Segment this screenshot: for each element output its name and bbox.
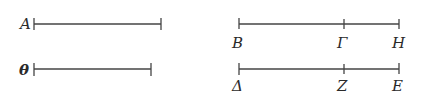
label-h: H <box>391 34 406 52</box>
segment-theta <box>34 63 151 76</box>
label-theta: θ <box>19 61 29 79</box>
label-delta: Δ <box>231 77 243 95</box>
segment-a <box>34 18 161 30</box>
label-a: A <box>18 15 31 33</box>
label-b: B <box>231 34 243 52</box>
label-e: E <box>391 77 403 95</box>
label-z: Z <box>336 77 348 95</box>
label-gamma: Γ <box>336 34 348 52</box>
segment-delta-z-e <box>239 63 399 75</box>
segment-b-gamma-h <box>239 18 399 29</box>
geometry-diagram: A θ B Γ H Δ Z E <box>0 0 427 102</box>
